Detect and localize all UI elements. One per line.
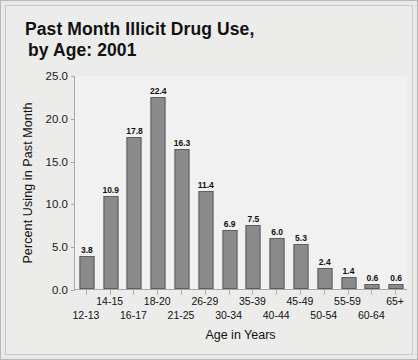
y-axis-tick-mark xyxy=(71,290,75,291)
bar-value-label: 10.9 xyxy=(102,185,119,195)
y-axis-tick-label: 10.0 xyxy=(22,198,68,210)
x-axis-tick-mark xyxy=(276,290,277,295)
x-axis-category-label: 30-34 xyxy=(215,309,242,321)
bar-value-label: 11.4 xyxy=(198,180,214,190)
bar-value-label: 17.8 xyxy=(126,126,143,136)
bar-value-label: 6.9 xyxy=(224,219,236,229)
bar[interactable] xyxy=(389,284,404,289)
x-axis-category-label: 12-13 xyxy=(72,309,99,321)
bar[interactable] xyxy=(317,268,332,289)
chart-title: Past Month Illicit Drug Use, by Age: 200… xyxy=(25,19,365,61)
y-axis-tick-label: 25.0 xyxy=(22,70,68,82)
bar-value-label: 3.8 xyxy=(81,245,93,255)
y-axis-tick-label: 5.0 xyxy=(22,241,68,253)
x-axis-category-label: 55-59 xyxy=(334,295,361,307)
bar-slot: 6.9 xyxy=(218,76,242,289)
bar[interactable] xyxy=(175,149,190,289)
y-axis-tick-label: 20.0 xyxy=(22,113,68,125)
bar[interactable] xyxy=(79,256,94,289)
bar[interactable] xyxy=(365,284,380,289)
plot-area: 3.810.917.822.416.311.46.97.56.05.32.41.… xyxy=(75,76,407,289)
x-axis-category-label: 35-39 xyxy=(239,295,266,307)
x-axis-tick-mark xyxy=(181,290,182,295)
x-axis-category-label: 50-54 xyxy=(310,309,337,321)
x-axis-category-label: 45-49 xyxy=(287,295,314,307)
y-axis-label-text: Percent Using in Past Month xyxy=(21,102,35,263)
y-axis-label: Percent Using in Past Month xyxy=(19,76,37,290)
bar[interactable] xyxy=(198,191,213,289)
bar-slot: 6.0 xyxy=(265,76,289,289)
bar-value-label: 0.6 xyxy=(390,273,402,283)
x-axis-category-label: 21-25 xyxy=(168,309,195,321)
x-axis-tick-mark xyxy=(86,290,87,295)
bar[interactable] xyxy=(151,97,166,289)
bar[interactable] xyxy=(246,225,261,289)
bar[interactable] xyxy=(270,238,285,289)
bar-value-label: 22.4 xyxy=(150,86,167,96)
bar-value-label: 7.5 xyxy=(247,214,259,224)
x-axis-label: Age in Years xyxy=(74,328,407,342)
bar-slot: 22.4 xyxy=(146,76,170,289)
y-axis-tick-label: 15.0 xyxy=(22,156,68,168)
bar-value-label: 16.3 xyxy=(174,138,191,148)
x-axis-category-label: 18-20 xyxy=(144,295,171,307)
bar-slot: 2.4 xyxy=(313,76,337,289)
chart-title-line-1: Past Month Illicit Drug Use, xyxy=(25,19,365,40)
bar-value-label: 6.0 xyxy=(271,227,283,237)
x-axis-category-label: 40-44 xyxy=(263,309,290,321)
bar-slot: 5.3 xyxy=(289,76,313,289)
plot-frame: 3.810.917.822.416.311.46.97.56.05.32.41.… xyxy=(74,76,407,290)
bar-slot: 17.8 xyxy=(123,76,147,289)
bar-slot: 10.9 xyxy=(99,76,123,289)
x-axis-tick-mark xyxy=(371,290,372,295)
bar-value-label: 1.4 xyxy=(343,266,355,276)
bar-slot: 3.8 xyxy=(75,76,99,289)
y-axis-tick-label: 0.0 xyxy=(22,284,68,296)
x-axis-category-label: 14-15 xyxy=(96,295,123,307)
bar[interactable] xyxy=(127,137,142,289)
bar[interactable] xyxy=(103,196,118,289)
bar-slot: 7.5 xyxy=(242,76,266,289)
bar-slot: 0.6 xyxy=(360,76,384,289)
bar[interactable] xyxy=(222,230,237,289)
chart-title-line-2: by Age: 2001 xyxy=(25,40,365,61)
bar[interactable] xyxy=(293,244,308,289)
bar-value-label: 2.4 xyxy=(319,257,331,267)
bar-slot: 16.3 xyxy=(170,76,194,289)
x-axis-category-label: 16-17 xyxy=(120,309,147,321)
bar[interactable] xyxy=(341,277,356,289)
bar-value-label: 5.3 xyxy=(295,233,307,243)
x-axis-tick-mark xyxy=(133,290,134,295)
chart-inner-panel: Past Month Illicit Drug Use, by Age: 200… xyxy=(5,5,413,355)
bar-slot: 11.4 xyxy=(194,76,218,289)
bar-slot: 1.4 xyxy=(337,76,361,289)
chart-card: Past Month Illicit Drug Use, by Age: 200… xyxy=(0,0,418,360)
x-axis-category-label: 60-64 xyxy=(358,309,385,321)
x-axis-category-label: 65+ xyxy=(386,295,404,307)
x-axis-tick-mark xyxy=(229,290,230,295)
x-axis-category-label: 26-29 xyxy=(191,295,218,307)
bar-slot: 0.6 xyxy=(384,76,408,289)
bar-value-label: 0.6 xyxy=(366,273,378,283)
x-axis-tick-mark xyxy=(324,290,325,295)
